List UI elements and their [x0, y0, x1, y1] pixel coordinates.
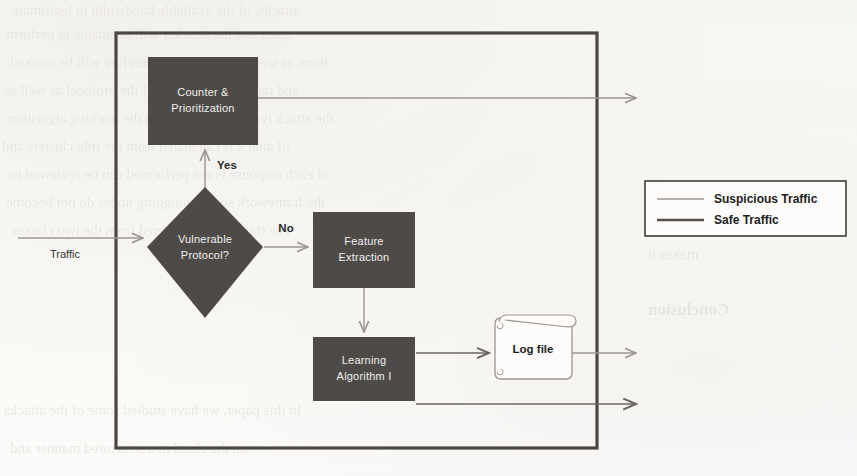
node-feature-label-line2: Extraction — [339, 251, 390, 263]
node-log-file: Log file — [495, 315, 576, 379]
node-feature-extraction: Feature Extraction — [313, 212, 415, 288]
edge-label-traffic: Traffic — [50, 248, 80, 260]
node-decision-label-line1: Vulnerable — [178, 233, 232, 245]
node-counter-prioritization: Counter & Prioritization — [148, 57, 258, 145]
node-counter-label-line2: Prioritization — [171, 102, 234, 114]
legend: Suspicious Traffic Safe Traffic — [645, 181, 846, 236]
node-log-file-label: Log file — [513, 343, 554, 355]
edge-label-no: No — [278, 222, 293, 234]
node-feature-label-line1: Feature — [344, 235, 383, 247]
node-vulnerable-protocol-decision: Vulnerable Protocol? — [147, 187, 263, 318]
diagram-page: attacks, of the available bandwidth to l… — [0, 0, 857, 476]
flowchart-canvas: Counter & Prioritization Vulnerable Prot… — [0, 0, 857, 476]
edge-label-yes: Yes — [217, 159, 237, 171]
node-counter-label-line1: Counter & — [177, 86, 229, 98]
legend-label-suspicious: Suspicious Traffic — [714, 192, 818, 206]
node-learning-label-line2: Algorithm I — [337, 370, 392, 382]
node-decision-label-line2: Protocol? — [181, 249, 229, 261]
legend-label-safe: Safe Traffic — [714, 213, 779, 227]
node-learning-algorithm: Learning Algorithm I — [313, 337, 415, 401]
node-learning-label-line1: Learning — [342, 354, 386, 366]
